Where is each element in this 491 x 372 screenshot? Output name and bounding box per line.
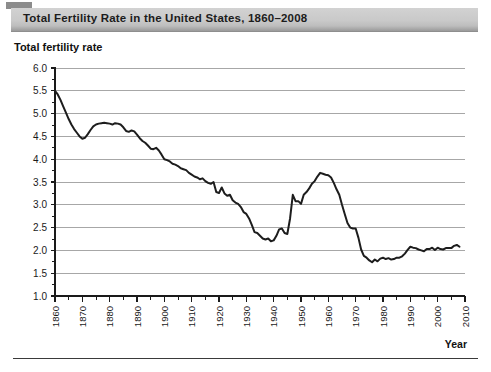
x-tick-label: 1970 [350, 306, 361, 327]
series-line-total-fertility-rate [55, 91, 460, 262]
x-axis-title: Year [445, 338, 467, 350]
x-tick-label: 1980 [378, 306, 389, 327]
fertility-rate-line-chart: 1.01.52.02.53.03.54.04.55.05.56.0 186018… [0, 0, 491, 372]
x-axis-tick-labels: 1860187018801890190019101920193019401950… [50, 306, 471, 327]
y-tick-label: 3.0 [33, 199, 47, 210]
x-tick-label: 1920 [214, 306, 225, 327]
x-tick-label: 1890 [132, 306, 143, 327]
gridlines [55, 68, 465, 273]
y-tick-label: 1.5 [33, 268, 47, 279]
y-tick-label: 5.0 [33, 108, 47, 119]
x-tick-label: 1900 [159, 306, 170, 327]
x-tick-label: 1950 [296, 306, 307, 327]
x-tick-label: 1880 [104, 306, 115, 327]
y-tick-label: 5.5 [33, 85, 47, 96]
y-tick-label: 4.5 [33, 131, 47, 142]
x-tick-label: 1990 [405, 306, 416, 327]
x-tick-label: 2010 [460, 306, 471, 327]
y-tick-label: 4.0 [33, 154, 47, 165]
bottom-divider [13, 358, 478, 359]
y-tick-label: 2.5 [33, 222, 47, 233]
y-tick-label: 3.5 [33, 177, 47, 188]
y-tick-label: 2.0 [33, 245, 47, 256]
x-tick-label: 2000 [432, 306, 443, 327]
x-axis-ticks [55, 296, 465, 302]
x-tick-label: 1960 [323, 306, 334, 327]
y-tick-label: 1.0 [33, 291, 47, 302]
x-tick-label: 1940 [268, 306, 279, 327]
y-axis-tick-labels: 1.01.52.02.53.03.54.04.55.05.56.0 [33, 63, 47, 302]
y-tick-label: 6.0 [33, 63, 47, 74]
x-tick-label: 1910 [186, 306, 197, 327]
chart-plot-region: 1.01.52.02.53.03.54.04.55.05.56.0 186018… [0, 0, 491, 372]
x-tick-label: 1860 [50, 306, 61, 327]
x-tick-label: 1870 [77, 306, 88, 327]
x-tick-label: 1930 [241, 306, 252, 327]
